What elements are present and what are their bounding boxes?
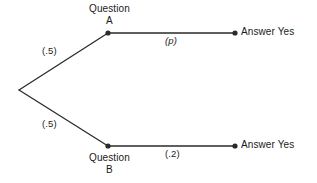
edge-label-question-a-to-answer: (p) xyxy=(165,35,177,47)
edge-root-to-question-a xyxy=(19,33,108,90)
edge-label-question-b-to-answer: (.2) xyxy=(165,148,180,160)
edge-label-root-to-question-b: (.5) xyxy=(42,118,57,130)
edge-label-root-to-question-a: (.5) xyxy=(42,45,57,57)
node-label-question-a-line2: A xyxy=(89,15,130,27)
node-dot-question-a xyxy=(105,30,110,35)
node-dot-answer-bottom xyxy=(232,143,237,148)
edge-root-to-question-b xyxy=(19,90,108,146)
node-label-answer-bottom: Answer Yes xyxy=(241,139,294,151)
node-label-question-a-line1: Question xyxy=(89,3,130,15)
node-label-answer-top: Answer Yes xyxy=(241,26,294,38)
node-label-question-b-line1: Question xyxy=(89,152,130,164)
node-dot-question-b xyxy=(105,143,110,148)
node-label-question-b-line2: B xyxy=(89,164,130,176)
node-label-question-a: Question A xyxy=(89,3,130,26)
probability-tree-diagram: Question A Question B (.5) (.5) (p) (.2)… xyxy=(0,0,317,183)
node-dot-answer-top xyxy=(232,30,237,35)
node-label-question-b: Question B xyxy=(89,152,130,175)
